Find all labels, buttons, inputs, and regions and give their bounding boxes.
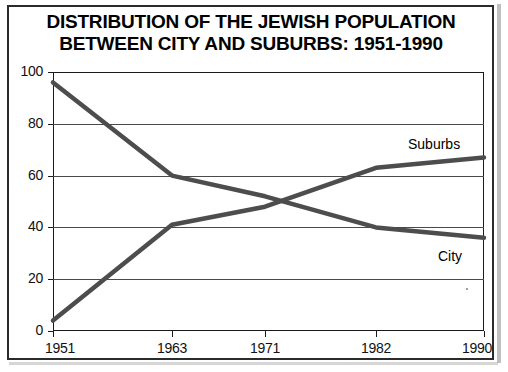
series-label-city: City <box>438 248 462 264</box>
scan-speck <box>466 288 468 290</box>
series-line-city <box>53 82 484 237</box>
series-line-suburbs <box>53 158 484 321</box>
series-lines <box>0 0 508 372</box>
line-chart: 020406080100 19511963197119821990 Suburb… <box>0 0 508 372</box>
chart-page: DISTRIBUTION OF THE JEWISH POPULATION BE… <box>0 0 508 372</box>
series-label-suburbs: Suburbs <box>408 136 460 152</box>
